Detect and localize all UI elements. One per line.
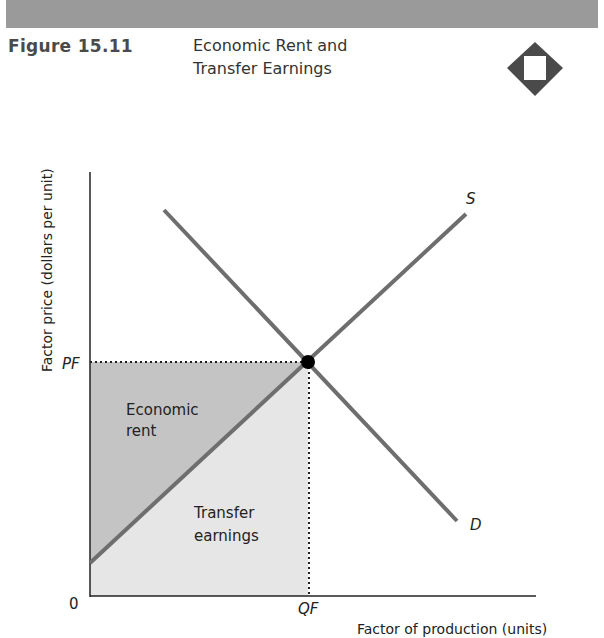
chart: S D PF QF 0 Economic rent Transfer earni…	[0, 0, 604, 638]
transfer-earnings-label-line1: Transfer	[193, 504, 255, 522]
economic-rent-label-line1: Economic	[126, 401, 199, 419]
equilibrium-point	[301, 355, 315, 369]
qf-tick-label: QF	[298, 600, 319, 618]
pf-tick-label: PF	[62, 355, 80, 373]
demand-label: D	[470, 516, 482, 534]
economic-rent-label-line2: rent	[126, 422, 157, 440]
supply-label: S	[466, 190, 476, 208]
x-axis-title: Factor of production (units)	[357, 621, 547, 637]
origin-label: 0	[69, 595, 79, 613]
transfer-earnings-label-line2: earnings	[194, 527, 259, 545]
y-axis-title: Factor price (dollars per unit)	[39, 168, 55, 372]
